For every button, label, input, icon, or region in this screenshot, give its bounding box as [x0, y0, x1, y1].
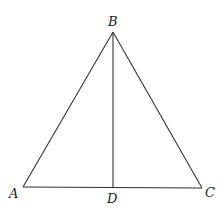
- segment-ab: [23, 32, 113, 187]
- label-d: D: [106, 191, 118, 206]
- label-b: B: [107, 14, 118, 29]
- geometry-diagram: B A D C: [0, 0, 223, 210]
- label-c: C: [205, 185, 215, 200]
- segment-bc: [113, 32, 202, 188]
- label-a: A: [8, 186, 18, 201]
- triangle-figure: B A D C: [0, 0, 223, 210]
